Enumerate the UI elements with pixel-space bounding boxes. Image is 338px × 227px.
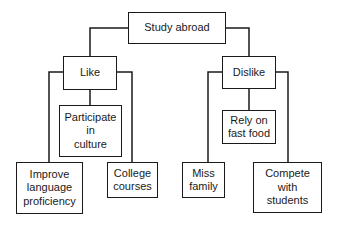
node-miss-family: Miss family	[182, 162, 225, 198]
node-label: Like	[80, 66, 100, 80]
node-study-abroad: Study abroad	[128, 12, 226, 44]
node-dislike: Dislike	[222, 56, 276, 89]
node-label: Participate in culture	[65, 111, 117, 152]
node-label: Miss family	[189, 167, 218, 194]
node-college-courses: College courses	[107, 162, 158, 198]
node-compete-with-students: Compete with students	[253, 162, 322, 213]
node-label: College courses	[113, 167, 152, 194]
node-label: Compete with students	[265, 167, 310, 208]
node-participate-in-culture: Participate in culture	[59, 105, 122, 157]
node-label: Study abroad	[144, 21, 209, 35]
node-label: Improve language proficiency	[23, 168, 76, 209]
tree-diagram: Study abroad Like Dislike Participate in…	[0, 0, 338, 227]
node-like: Like	[63, 56, 117, 90]
node-rely-on-fast-food: Rely on fast food	[222, 110, 276, 144]
node-label: Dislike	[233, 66, 265, 80]
node-improve-language-proficiency: Improve language proficiency	[16, 162, 83, 214]
node-label: Rely on fast food	[228, 114, 270, 141]
